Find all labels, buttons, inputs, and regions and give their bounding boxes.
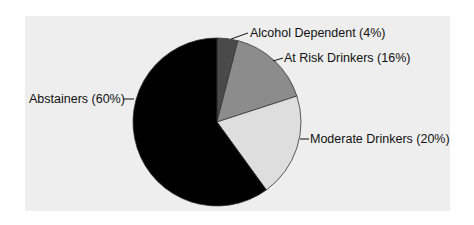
leader-line-at-risk (273, 58, 283, 61)
label-at-risk-drinkers: At Risk Drinkers (16%) (284, 51, 410, 65)
label-alcohol-dependent: Alcohol Dependent (4%) (250, 26, 386, 40)
label-abstainers: Abstainers (60%) (29, 92, 125, 106)
pie-slices (133, 38, 301, 206)
label-moderate-drinkers: Moderate Drinkers (20%) (310, 132, 450, 146)
leader-line-alcohol-dependent (231, 33, 248, 39)
pie-chart (0, 0, 474, 225)
